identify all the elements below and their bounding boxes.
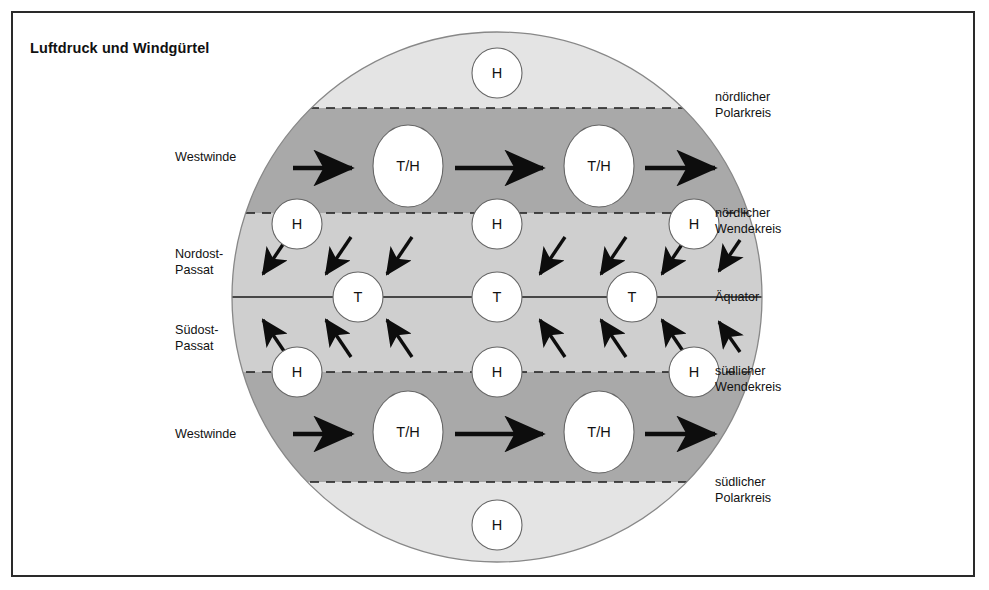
cell-label: H bbox=[689, 216, 699, 232]
cell-label: T bbox=[628, 289, 637, 305]
pressure-cell: T/H bbox=[564, 125, 634, 207]
pressure-cell: H bbox=[472, 48, 522, 98]
pressure-cell: H bbox=[669, 347, 719, 397]
wind-label-westwinde-sued: Westwinde bbox=[175, 427, 236, 443]
diagram-page: Luftdruck und Windgürtel bbox=[0, 0, 989, 590]
pressure-cell: T/H bbox=[564, 391, 634, 473]
pressure-cell: T bbox=[607, 272, 657, 322]
pressure-cell: H bbox=[272, 347, 322, 397]
boundary-label-suedlicher-wendekreis: südlicher Wendekreis bbox=[715, 364, 781, 395]
cell-label: T bbox=[493, 289, 502, 305]
pressure-cell: H bbox=[472, 347, 522, 397]
globe-diagram: H T/H T/H H H H bbox=[0, 0, 989, 590]
pressure-cell: H bbox=[472, 500, 522, 550]
cell-label: H bbox=[292, 216, 302, 232]
boundary-label-noerdlicher-polarkreis: nördlicher Polarkreis bbox=[715, 90, 771, 121]
boundary-label-line: Polarkreis bbox=[715, 106, 771, 122]
cell-label: T/H bbox=[587, 424, 610, 440]
cell-label: T/H bbox=[396, 158, 419, 174]
wind-label-line: Westwinde bbox=[175, 427, 236, 443]
boundary-label-noerdlicher-wendekreis: nördlicher Wendekreis bbox=[715, 206, 781, 237]
pressure-cell: H bbox=[472, 199, 522, 249]
cell-label: H bbox=[492, 364, 502, 380]
pressure-cell: T/H bbox=[373, 125, 443, 207]
boundary-label-line: nördlicher bbox=[715, 90, 771, 106]
boundary-label-suedlicher-polarkreis: südlicher Polarkreis bbox=[715, 475, 771, 506]
wind-label-suedost-passat: Südost- Passat bbox=[175, 323, 218, 354]
boundary-label-line: nördlicher bbox=[715, 206, 781, 222]
wind-label-line: Nordost- bbox=[175, 247, 223, 263]
wind-label-line: Passat bbox=[175, 263, 223, 279]
pressure-cell: T/H bbox=[373, 391, 443, 473]
cell-label: H bbox=[292, 364, 302, 380]
boundary-label-line: Wendekreis bbox=[715, 380, 781, 396]
cell-label: T/H bbox=[587, 158, 610, 174]
boundary-label-line: Äquator bbox=[715, 290, 759, 306]
cell-label: H bbox=[689, 364, 699, 380]
wind-label-westwinde-nord: Westwinde bbox=[175, 150, 236, 166]
boundary-label-line: südlicher bbox=[715, 364, 781, 380]
wind-label-line: Westwinde bbox=[175, 150, 236, 166]
zone-noerdliche-westwindzone bbox=[230, 108, 766, 214]
cell-label: H bbox=[492, 216, 502, 232]
cell-label: T/H bbox=[396, 424, 419, 440]
wind-label-line: Passat bbox=[175, 339, 218, 355]
pressure-cell: H bbox=[669, 199, 719, 249]
boundary-label-line: südlicher bbox=[715, 475, 771, 491]
pressure-cell: H bbox=[272, 199, 322, 249]
wind-label-line: Südost- bbox=[175, 323, 218, 339]
boundary-label-aequator: Äquator bbox=[715, 290, 759, 306]
cell-label: H bbox=[492, 65, 502, 81]
wind-label-nordost-passat: Nordost- Passat bbox=[175, 247, 223, 278]
boundary-label-line: Polarkreis bbox=[715, 491, 771, 507]
cell-label: H bbox=[492, 517, 502, 533]
pressure-cell: T bbox=[472, 272, 522, 322]
pressure-cell: T bbox=[333, 272, 383, 322]
boundary-label-line: Wendekreis bbox=[715, 222, 781, 238]
cell-label: T bbox=[354, 289, 363, 305]
